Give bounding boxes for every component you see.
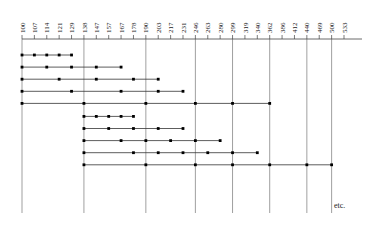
series-row xyxy=(83,151,259,154)
data-point-marker xyxy=(83,151,86,154)
series-row xyxy=(83,127,185,130)
series-row xyxy=(21,90,185,93)
axis-tick-label: 203 xyxy=(155,22,163,33)
data-point-marker xyxy=(157,90,160,93)
axis-tick-label: 217 xyxy=(167,22,175,33)
axis-tick-label: 147 xyxy=(93,22,101,33)
axis-tick-label: 246 xyxy=(192,22,200,33)
axis-tick-label: 263 xyxy=(204,22,212,33)
data-point-marker xyxy=(70,66,73,69)
data-point-marker xyxy=(268,163,271,166)
data-point-marker xyxy=(157,127,160,130)
data-point-marker xyxy=(120,90,123,93)
data-point-marker xyxy=(194,139,197,142)
data-point-marker xyxy=(107,127,110,130)
data-point-marker xyxy=(70,54,73,57)
data-point-marker xyxy=(120,66,123,69)
data-point-marker xyxy=(58,78,61,81)
data-point-marker xyxy=(120,139,123,142)
data-point-marker xyxy=(21,102,24,105)
data-point-marker xyxy=(144,139,147,142)
axis-tick-label: 469 xyxy=(316,22,324,33)
axis-tick-label: 319 xyxy=(242,22,250,33)
data-point-marker xyxy=(83,115,86,118)
series-row xyxy=(83,115,135,118)
data-point-marker xyxy=(194,163,197,166)
axis-tick-label: 190 xyxy=(142,22,150,33)
data-point-marker xyxy=(182,90,185,93)
data-point-marker xyxy=(132,151,135,154)
data-point-marker xyxy=(144,102,147,105)
data-point-marker xyxy=(132,115,135,118)
axis-tick-label: 129 xyxy=(68,22,76,33)
data-point-marker xyxy=(21,78,24,81)
series-row xyxy=(83,139,222,142)
axis-tick-label: 138 xyxy=(81,22,89,33)
data-point-marker xyxy=(33,54,36,57)
axis-tick-label: 440 xyxy=(303,22,311,33)
data-point-marker xyxy=(95,115,98,118)
interval-chart: 1001071141211291381471571671781902032172… xyxy=(0,0,369,228)
data-point-marker xyxy=(231,151,234,154)
data-point-marker xyxy=(83,163,86,166)
data-point-marker xyxy=(231,163,234,166)
axis-tick-label: 114 xyxy=(43,22,51,33)
data-point-marker xyxy=(45,54,48,57)
series-row xyxy=(21,54,73,57)
axis-tick-label: 500 xyxy=(328,22,336,33)
axis-ticks-group xyxy=(22,35,344,39)
data-point-marker xyxy=(330,163,333,166)
chart-container: 1001071141211291381471571671781902032172… xyxy=(0,0,369,228)
series-row xyxy=(21,66,123,69)
data-point-marker xyxy=(256,151,259,154)
series-group xyxy=(21,54,333,167)
data-point-marker xyxy=(120,115,123,118)
data-point-marker xyxy=(268,102,271,105)
data-point-marker xyxy=(58,54,61,57)
data-point-marker xyxy=(144,163,147,166)
axis-tick-label: 167 xyxy=(118,22,126,33)
series-row xyxy=(83,163,333,166)
axis-tick-label: 412 xyxy=(291,22,299,33)
axis-tick-label: 121 xyxy=(56,22,64,33)
axis-tick-label: 107 xyxy=(31,22,39,33)
data-point-marker xyxy=(305,163,308,166)
axis-tick-label: 100 xyxy=(19,22,27,33)
data-point-marker xyxy=(83,102,86,105)
data-point-marker xyxy=(83,127,86,130)
data-point-marker xyxy=(21,66,24,69)
axis-tick-label: 299 xyxy=(229,22,237,33)
data-point-marker xyxy=(132,127,135,130)
series-row xyxy=(21,102,271,105)
data-point-marker xyxy=(157,78,160,81)
data-point-marker xyxy=(182,127,185,130)
axis-tick-label: 157 xyxy=(105,22,113,33)
data-point-marker xyxy=(157,151,160,154)
data-point-marker xyxy=(95,78,98,81)
data-point-marker xyxy=(132,78,135,81)
axis-tick-label: 362 xyxy=(266,22,274,33)
data-point-marker xyxy=(21,90,24,93)
data-point-marker xyxy=(231,102,234,105)
axis-tick-label: 386 xyxy=(279,22,287,33)
axis-tick-label: 178 xyxy=(130,22,138,33)
data-point-marker xyxy=(107,115,110,118)
data-point-marker xyxy=(95,66,98,69)
axis-tick-label: 280 xyxy=(217,22,225,33)
data-point-marker xyxy=(182,151,185,154)
series-row xyxy=(21,78,160,81)
etc-annotation: etc. xyxy=(334,201,345,210)
gridlines-group xyxy=(22,39,332,213)
data-point-marker xyxy=(206,151,209,154)
data-point-marker xyxy=(219,139,222,142)
data-point-marker xyxy=(83,139,86,142)
axis-tick-label: 340 xyxy=(254,22,262,33)
axis-tick-label: 231 xyxy=(180,22,188,33)
data-point-marker xyxy=(169,139,172,142)
data-point-marker xyxy=(21,54,24,57)
data-point-marker xyxy=(45,66,48,69)
data-point-marker xyxy=(70,90,73,93)
data-point-marker xyxy=(194,102,197,105)
axis-tick-labels-group: 1001071141211291381471571671781902032172… xyxy=(19,22,349,33)
axis-tick-label: 533 xyxy=(341,22,349,33)
